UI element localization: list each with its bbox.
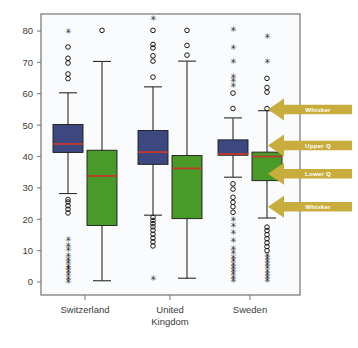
annotation-label: Whisker (305, 203, 331, 210)
outlier-star: ✳ (264, 57, 271, 66)
y-tick-label: 40 (22, 151, 33, 162)
boxplot-figure: ✳✳✳✳✳✳✳✳✳✳✳✳✳✳✳✳✳✳✳✳✳✳✳✳✳✳✳✳✳✳✳✳✳✳✳✳✳✳✳✳… (0, 0, 358, 348)
annotation-label: Whisker (305, 106, 331, 113)
y-tick-label: 60 (22, 88, 33, 99)
x-tick-label: United (156, 304, 183, 315)
y-tick-label: 30 (22, 182, 33, 193)
outlier-star: ✳ (230, 43, 237, 52)
outlier-star: ✳ (264, 251, 271, 260)
outlier-star: ✳ (65, 27, 72, 36)
y-tick-label: 70 (22, 57, 33, 68)
y-tick-label: 0 (28, 276, 33, 287)
outlier-star: ✳ (230, 72, 237, 81)
outlier-star: ✳ (65, 235, 72, 244)
y-tick-label: 80 (22, 25, 33, 36)
box-rect (138, 130, 168, 164)
annotation-label: Upper Q (305, 142, 331, 149)
y-tick-label: 10 (22, 245, 33, 256)
box-rect (87, 150, 117, 225)
y-tick-label: 20 (22, 214, 33, 225)
outlier-star: ✳ (150, 274, 157, 283)
x-tick-label: Sweden (233, 304, 267, 315)
box-rect (53, 124, 83, 152)
outlier-star: ✳ (230, 57, 237, 66)
outlier-star: ✳ (230, 244, 237, 253)
outlier-star: ✳ (230, 236, 237, 245)
outlier-star: ✳ (264, 32, 271, 41)
x-tick-label: Switzerland (60, 304, 109, 315)
y-tick-label: 50 (22, 120, 33, 131)
box-rect (218, 140, 248, 155)
x-tick-label: Kingdom (151, 316, 189, 327)
outlier-star: ✳ (230, 25, 237, 34)
annotation-label: Lower Q (305, 170, 331, 177)
box-rect (172, 156, 202, 219)
boxplot-canvas: ✳✳✳✳✳✳✳✳✳✳✳✳✳✳✳✳✳✳✳✳✳✳✳✳✳✳✳✳✳✳✳✳✳✳✳✳✳✳✳✳… (0, 0, 358, 348)
outlier-star: ✳ (150, 14, 157, 23)
outlier-star: ✳ (230, 215, 237, 224)
